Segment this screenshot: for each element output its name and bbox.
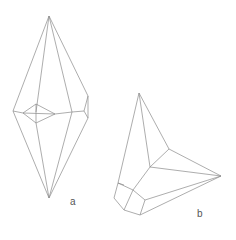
crystal-edge — [150, 167, 221, 176]
crystal-figure: a b — [0, 0, 236, 240]
crystal-edge — [36, 16, 49, 112]
crystal-edge — [140, 176, 221, 215]
crystal-edge — [84, 111, 88, 118]
crystal-edge — [23, 113, 36, 123]
crystal-edge — [55, 112, 72, 114]
crystal-edge — [145, 176, 221, 200]
label-a: a — [70, 196, 76, 207]
crystal-edge — [169, 149, 221, 176]
crystal-edge — [49, 16, 72, 112]
crystal-edge — [72, 111, 84, 112]
crystal-edge — [133, 167, 150, 190]
crystal-edge — [133, 190, 145, 200]
crystal-edge — [84, 96, 88, 111]
crystal-edge — [49, 16, 88, 96]
crystal-edge — [36, 123, 49, 198]
crystal-edge — [118, 93, 139, 183]
crystal-edge — [114, 183, 118, 198]
crystal-b-drawing — [114, 93, 221, 215]
crystal-edge — [124, 210, 140, 215]
crystal-edge — [13, 16, 49, 111]
crystal-edge — [23, 113, 55, 114]
crystal-edge — [13, 111, 23, 113]
crystal-edge — [13, 111, 49, 198]
crystal-edge — [49, 112, 72, 198]
crystal-edge — [139, 93, 150, 167]
crystal-edge — [49, 118, 88, 198]
crystal-edge — [124, 190, 133, 210]
crystal-edge — [36, 104, 55, 114]
crystal-edge — [114, 198, 124, 210]
label-b: b — [197, 208, 203, 219]
crystal-edge — [36, 114, 55, 123]
crystal-a-drawing — [13, 16, 88, 198]
crystal-edge — [150, 149, 169, 167]
crystal-edge — [23, 104, 36, 113]
